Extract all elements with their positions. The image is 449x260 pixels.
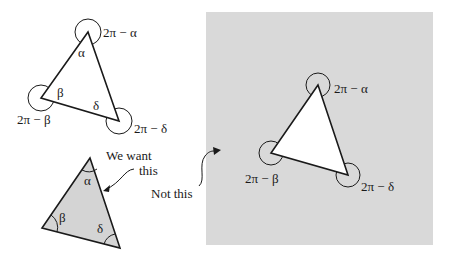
- exterior-angle-beta-label: 2π − β: [17, 112, 51, 127]
- we-want-text-line2: this: [139, 163, 158, 178]
- triangle-angles-diagram: α β δ 2π − α 2π − β 2π − δ α β δ We want…: [0, 0, 449, 260]
- interior-angle-beta-label: β: [59, 210, 66, 225]
- interior-angle-alpha-label: α: [84, 173, 91, 188]
- shaded-triangle: [42, 158, 120, 248]
- bottom-left-triangle: α β δ: [42, 158, 120, 248]
- exterior-angle-delta-label: 2π − δ: [134, 121, 167, 136]
- not-this-text: Not this: [151, 186, 193, 201]
- exterior-angle-alpha-label: 2π − α: [334, 81, 368, 96]
- interior-angle-beta-label: β: [57, 85, 64, 100]
- interior-angle-delta-label: δ: [93, 98, 99, 113]
- interior-angle-alpha-label: α: [78, 45, 85, 60]
- we-want-arrowhead-icon: [103, 185, 110, 192]
- top-left-triangle: α β δ 2π − α 2π − β 2π − δ: [17, 19, 167, 136]
- exterior-angle-beta-label: 2π − β: [245, 171, 279, 186]
- we-want-text-line1: We want: [106, 148, 152, 163]
- interior-angle-delta-label: δ: [97, 221, 103, 236]
- exterior-angle-alpha-label: 2π − α: [103, 25, 137, 40]
- we-want-this-annotation: We want this: [103, 148, 158, 192]
- exterior-angle-delta-label: 2π − δ: [361, 179, 394, 194]
